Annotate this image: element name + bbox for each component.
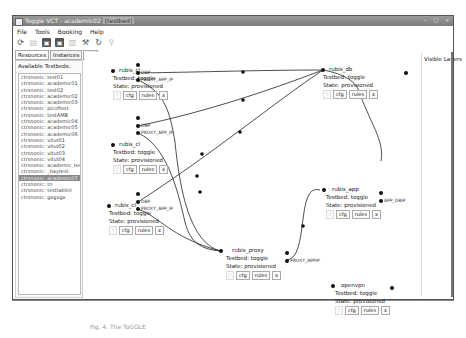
rules-button[interactable]: rules — [349, 90, 367, 99]
info-button[interactable]: ! — [323, 90, 331, 99]
port-label: DBP — [141, 123, 150, 128]
search-icon[interactable]: ⚲ — [107, 38, 116, 47]
cfg-button[interactable]: cfg — [333, 90, 347, 99]
port-dot[interactable] — [390, 286, 394, 290]
menu-booking[interactable]: Booking — [58, 27, 82, 36]
delete-button[interactable]: x — [369, 90, 378, 99]
port-dot[interactable] — [285, 251, 289, 255]
node-rubis-proxy[interactable]: rubis_proxy Testbed: toggle State: provi… — [226, 246, 281, 280]
node-name: rubis_db — [323, 65, 378, 73]
node-name: rubis_cl — [113, 140, 168, 148]
cfg-button[interactable]: cfg — [336, 210, 350, 219]
minimize-button[interactable]: – — [422, 18, 428, 23]
scrollbar[interactable] — [451, 52, 453, 297]
save-icon[interactable]: ▣ — [42, 38, 51, 47]
menu-help[interactable]: Help — [90, 27, 104, 36]
port-dot[interactable] — [379, 191, 383, 195]
port-dot[interactable] — [136, 207, 140, 211]
delete-button[interactable]: x — [155, 226, 164, 235]
node-type: Testbed: toggle — [226, 254, 281, 262]
list-item[interactable]: ctrsnonic: testlablinl — [19, 187, 80, 193]
info-button[interactable]: ! — [326, 210, 334, 219]
save-disabled-icon[interactable]: ▤ — [29, 38, 38, 47]
port-dot[interactable] — [136, 200, 140, 204]
port-dot[interactable] — [136, 116, 140, 120]
port-dot[interactable] — [285, 259, 289, 263]
node-state: State: provisioned — [113, 156, 168, 164]
reload-icon[interactable]: ↻ — [94, 38, 103, 47]
refresh-circle-icon[interactable]: ⟳ — [16, 38, 25, 47]
list-item[interactable]: ctrsnonic: academic01 — [19, 80, 80, 86]
port-dot[interactable] — [136, 131, 140, 135]
testbeds-header: Available Testbeds: — [16, 61, 82, 71]
title-bar[interactable]: Toggle VCT - academic02[testbed] – □ × — [13, 16, 453, 26]
port-dot[interactable] — [379, 199, 383, 203]
node-rubis-app[interactable]: rubis_app Testbed: toggle State: provisi… — [326, 185, 381, 219]
rules-button[interactable]: rules — [139, 91, 157, 100]
menu-file[interactable]: File — [17, 27, 27, 36]
node-type: Testbed: toggle — [326, 193, 381, 201]
port-label: PROXY_APP_IP — [141, 77, 173, 82]
cfg-button[interactable]: cfg — [123, 165, 137, 174]
cfg-button[interactable]: cfg — [119, 226, 133, 235]
rules-button[interactable]: rules — [252, 271, 270, 280]
rules-button[interactable]: rules — [139, 165, 157, 174]
node-rubis-db[interactable]: rubis_db Testbed: toggle State: provisio… — [323, 65, 378, 99]
cfg-button[interactable]: cfg — [123, 91, 137, 100]
port-label: PROXY_APP_IP — [141, 206, 173, 211]
trash-icon[interactable]: ▥ — [68, 38, 77, 47]
info-button[interactable]: ! — [113, 165, 121, 174]
node-state: State: provisioned — [335, 297, 390, 305]
tool-icon[interactable]: ⚒ — [81, 38, 90, 47]
app-icon — [15, 18, 23, 26]
toolbar: ⟳ ▤ ▣ ▣ ▥ ⚒ ↻ ⚲ — [13, 36, 453, 49]
delete-button[interactable]: x — [272, 271, 281, 280]
info-button[interactable]: ! — [113, 91, 121, 100]
port-dot[interactable] — [136, 78, 140, 82]
topology-canvas[interactable]: rubis_cl Testbed: toggle State: provisio… — [85, 52, 420, 297]
save-as-icon[interactable]: ▣ — [55, 38, 64, 47]
node-rubis-cl-2[interactable]: rubis_cl Testbed: toggle State: provisio… — [113, 140, 168, 174]
port-label: PROXY_APP_IP — [141, 130, 173, 135]
node-state: State: provisioned — [323, 81, 378, 89]
node-state: State: provisioned — [326, 201, 381, 209]
node-type: Testbed: toggle — [323, 73, 378, 81]
delete-button[interactable]: x — [372, 210, 381, 219]
menu-tools[interactable]: Tools — [35, 27, 50, 36]
list-item[interactable]: ctrsnonic: academic05 — [19, 124, 80, 130]
port-dot[interactable] — [136, 192, 140, 196]
testbed-list[interactable]: ctrsnonic: test01 ctrsnonic: academic01 … — [18, 73, 81, 295]
delete-button[interactable]: x — [159, 165, 168, 174]
maximize-button[interactable]: □ — [433, 18, 439, 23]
list-item[interactable]: ctrsnonic: gxgxgx — [19, 194, 80, 200]
port-label: APP_DBIP — [384, 198, 405, 203]
node-anchor-dot[interactable] — [219, 249, 223, 253]
port-dot[interactable] — [136, 63, 140, 67]
figure-caption: Fig. 4. The ToGGLE — [90, 323, 146, 330]
window-title-text: Toggle VCT - academic02 — [25, 17, 101, 24]
info-button[interactable]: ! — [226, 271, 234, 280]
cfg-button[interactable]: cfg — [345, 306, 359, 315]
node-type: Testbed: toggle — [113, 148, 168, 156]
layers-title: Visible Layers — [422, 52, 453, 62]
rules-button[interactable]: rules — [352, 210, 370, 219]
info-button[interactable]: ! — [109, 226, 117, 235]
node-state: State: provisioned — [109, 217, 164, 225]
rules-button[interactable]: rules — [135, 226, 153, 235]
tab-instances[interactable]: Instances — [50, 50, 82, 60]
node-state: State: provisioned — [226, 262, 281, 270]
tab-resources[interactable]: Resources — [15, 50, 49, 60]
port-dot[interactable] — [136, 124, 140, 128]
rules-button[interactable]: rules — [361, 306, 379, 315]
close-button[interactable]: × — [444, 18, 450, 23]
port-dot[interactable] — [404, 71, 408, 75]
cfg-button[interactable]: cfg — [236, 271, 250, 280]
node-name: rubis_proxy — [226, 246, 281, 254]
node-openvpn[interactable]: openvpn Testbed: toggle State: provision… — [335, 281, 390, 315]
port-dot[interactable] — [136, 71, 140, 75]
info-button[interactable]: ! — [335, 306, 343, 315]
delete-button[interactable]: x — [381, 306, 390, 315]
window-title: Toggle VCT - academic02[testbed] — [25, 17, 134, 24]
menu-bar: File Tools Booking Help — [13, 27, 453, 36]
delete-button[interactable]: x — [159, 91, 168, 100]
